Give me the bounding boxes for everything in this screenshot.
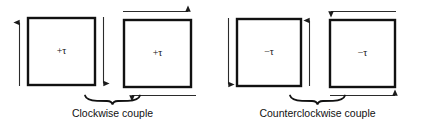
block-4-torque-label: −τ <box>358 47 368 58</box>
counterclockwise-caption: Counterclockwise couple <box>259 107 375 119</box>
clockwise-group-annotation: Clockwise couple <box>72 96 153 120</box>
block-2: +τ <box>123 12 196 96</box>
torque-couple-figure: +τ +τ −τ −τ Clockwise couple <box>0 0 422 132</box>
block-1: +τ <box>20 17 104 86</box>
clockwise-caption: Clockwise couple <box>72 107 153 119</box>
counterclockwise-group-annotation: Counterclockwise couple <box>259 96 375 120</box>
counterclockwise-brace <box>290 96 345 105</box>
block-2-torque-label: +τ <box>153 47 163 58</box>
clockwise-brace <box>85 96 140 105</box>
block-3: −τ <box>229 18 310 86</box>
figure-canvas: +τ +τ −τ −τ Clockwise couple <box>0 0 422 132</box>
block-1-torque-label: +τ <box>57 45 67 56</box>
block-4: −τ <box>330 12 396 96</box>
block-3-torque-label: −τ <box>264 46 274 57</box>
